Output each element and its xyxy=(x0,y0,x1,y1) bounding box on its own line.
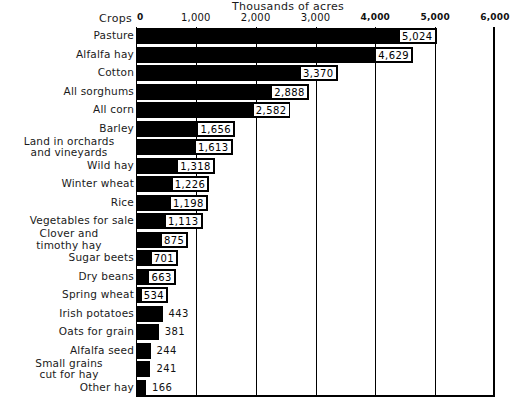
bar[interactable] xyxy=(136,324,159,340)
category-label: Small grains cut for hay xyxy=(2,358,136,381)
category-label-column: PastureAlfalfa hayCottonAll sorghumsAll … xyxy=(0,0,134,410)
bar-row[interactable]: 244 xyxy=(136,343,495,359)
bar-row[interactable]: 1,613 xyxy=(136,139,495,155)
x-tick-1000: 1,000 xyxy=(181,12,211,23)
bar-value-label: 1,318 xyxy=(177,159,214,173)
plot-area: 5,0244,6293,3702,8882,5821,6561,6131,318… xyxy=(136,27,495,397)
bar-value-label: 534 xyxy=(141,288,167,302)
category-label: Rice xyxy=(2,197,134,209)
bar-value-label: 1,198 xyxy=(170,196,207,210)
x-tick-3000: 3,000 xyxy=(301,12,331,23)
category-label: Alfalfa seed xyxy=(2,345,134,357)
bar[interactable] xyxy=(136,361,150,377)
bar-value-label: 381 xyxy=(165,325,185,339)
category-label: Sugar beets xyxy=(2,252,134,264)
bar-value-label: 1,226 xyxy=(172,177,209,191)
bar-row[interactable]: 5,024 xyxy=(136,28,495,44)
bar-row[interactable]: 875 xyxy=(136,232,495,248)
category-label: Clover and timothy hay xyxy=(2,228,136,251)
bar-row[interactable]: 663 xyxy=(136,269,495,285)
bar-row[interactable]: 381 xyxy=(136,324,495,340)
bar-value-label: 701 xyxy=(151,251,177,265)
bar-value-label: 166 xyxy=(152,381,172,395)
bar-value-label: 2,582 xyxy=(253,103,290,117)
category-label: Vegetables for sale xyxy=(2,215,134,227)
bar-value-label: 244 xyxy=(157,344,177,358)
x-tick-4000: 4,000 xyxy=(361,12,390,22)
bar[interactable] xyxy=(136,306,163,322)
bar-row[interactable]: 166 xyxy=(136,380,495,396)
bar-value-label: 443 xyxy=(169,307,189,321)
bar-row[interactable]: 443 xyxy=(136,306,495,322)
bar-value-label: 4,629 xyxy=(375,48,412,62)
bar-value-label: 663 xyxy=(148,270,174,284)
category-label: All corn xyxy=(2,104,134,116)
category-label: Irish potatoes xyxy=(2,308,134,320)
category-label: Cotton xyxy=(2,67,134,79)
bar-row[interactable]: 241 xyxy=(136,361,495,377)
category-label: Spring wheat xyxy=(2,289,134,301)
bar-row[interactable]: 1,656 xyxy=(136,121,495,137)
bar-value-label: 1,613 xyxy=(195,140,232,154)
bar-row[interactable]: 2,888 xyxy=(136,84,495,100)
bar-value-label: 5,024 xyxy=(399,29,436,43)
bar-value-label: 241 xyxy=(156,362,176,376)
category-label: Oats for grain xyxy=(2,326,134,338)
bar-row[interactable]: 2,582 xyxy=(136,102,495,118)
category-label: Pasture xyxy=(2,30,134,42)
bar-row[interactable]: 4,629 xyxy=(136,47,495,63)
x-tick-2000: 2,000 xyxy=(241,12,271,23)
category-label: All sorghums xyxy=(2,86,134,98)
bar[interactable] xyxy=(136,343,151,359)
bar-row[interactable]: 1,198 xyxy=(136,195,495,211)
bar-row[interactable]: 3,370 xyxy=(136,65,495,81)
bar-row[interactable]: 701 xyxy=(136,250,495,266)
category-label: Alfalfa hay xyxy=(2,49,134,61)
bar[interactable] xyxy=(136,380,146,396)
bar-value-label: 1,656 xyxy=(197,122,234,136)
category-label: Barley xyxy=(2,123,134,135)
category-label: Wild hay xyxy=(2,160,134,172)
bar-row[interactable]: 1,226 xyxy=(136,176,495,192)
category-label: Land in orchards and vineyards xyxy=(2,136,136,159)
bar-row[interactable]: 1,113 xyxy=(136,213,495,229)
category-label: Other hay xyxy=(2,382,134,394)
category-label: Dry beans xyxy=(2,271,134,283)
bar-value-label: 2,888 xyxy=(271,85,308,99)
x-tick-0: 0 xyxy=(137,12,143,22)
bar-row[interactable]: 534 xyxy=(136,287,495,303)
x-tick-5000: 5,000 xyxy=(420,12,449,22)
bar-value-label: 3,370 xyxy=(300,66,337,80)
category-label: Winter wheat xyxy=(2,178,134,190)
bar[interactable] xyxy=(136,47,413,63)
bar[interactable] xyxy=(136,28,437,44)
x-tick-6000: 6,000 xyxy=(480,12,509,22)
bar-row[interactable]: 1,318 xyxy=(136,158,495,174)
bar-value-label: 875 xyxy=(161,233,187,247)
bar-value-label: 1,113 xyxy=(165,214,202,228)
